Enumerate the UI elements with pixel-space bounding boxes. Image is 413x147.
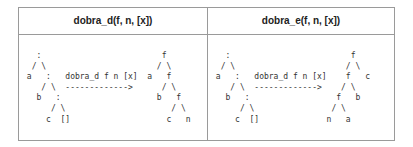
diagram-line: b : b f (22, 93, 191, 104)
dobra-e-diagram: : f / \ / \ a : dobra_d f n [x] f c / \ … (211, 51, 370, 125)
diagram-line: / \ / \ (22, 104, 191, 115)
diagram-line: c [] c n (22, 115, 191, 126)
dobra-d-diagram: : f / \ / \ a : dobra_d f n [x] a f / \ … (22, 51, 191, 125)
column-divider (207, 8, 208, 140)
diagram-line: a : dobra_d f n [x] f c (211, 72, 370, 83)
diagram-line: / \ / \ (22, 62, 191, 73)
diagram-line: : f (211, 51, 370, 62)
diagram-line: b : f b (211, 93, 370, 104)
diagram-line: a : dobra_d f n [x] a f (22, 72, 191, 83)
diagram-line: : f (22, 51, 191, 62)
diagram-line: / \ -------------> / \ (211, 83, 370, 94)
header-dobra-e: dobra_e(f, n, [x]) (208, 8, 394, 34)
diagram-line: / \ / \ (211, 104, 370, 115)
diagram-line: c [] n a (211, 115, 370, 126)
diagram-line: / \ -------------> / \ (22, 83, 191, 94)
diagram-line: / \ / \ (211, 62, 370, 73)
comparison-table: dobra_d(f, n, [x]) dobra_e(f, n, [x]) : … (18, 7, 395, 141)
header-dobra-d: dobra_d(f, n, [x]) (19, 8, 207, 34)
